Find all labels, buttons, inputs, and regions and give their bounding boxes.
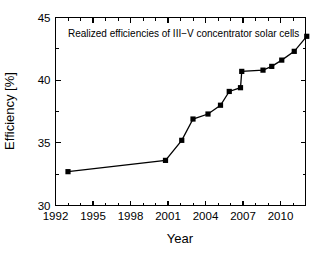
axis-frame xyxy=(56,18,306,206)
y-axis-major-ticks xyxy=(56,18,306,206)
plot-annotation-label: Realized efficiencies of III−V concentra… xyxy=(68,28,299,39)
data-series-group xyxy=(65,34,309,175)
x-tick-label: 1995 xyxy=(80,210,106,222)
y-axis-tick-labels: 30354045 xyxy=(38,12,51,212)
x-axis-minor-ticks xyxy=(68,18,306,206)
chart-figure: 1992199519982001200420072010 30354045 Re… xyxy=(0,0,322,256)
x-tick-label: 2001 xyxy=(155,210,181,222)
data-point-marker xyxy=(190,116,195,121)
x-tick-label: 1998 xyxy=(118,210,144,222)
data-point-marker xyxy=(238,85,243,90)
y-tick-label: 45 xyxy=(38,12,51,24)
x-axis-tick-labels: 1992199519982001200420072010 xyxy=(43,210,294,222)
x-tick-label: 2010 xyxy=(268,210,294,222)
data-point-marker xyxy=(279,58,284,63)
data-point-marker xyxy=(304,34,309,39)
series-markers xyxy=(65,34,309,175)
x-tick-label: 2007 xyxy=(230,210,256,222)
data-point-marker xyxy=(163,158,168,163)
y-tick-label: 35 xyxy=(38,137,51,149)
x-tick-label: 2004 xyxy=(193,210,219,222)
data-point-marker xyxy=(65,169,70,174)
x-axis-major-ticks xyxy=(56,18,281,206)
y-tick-label: 30 xyxy=(38,200,51,212)
data-point-marker xyxy=(227,89,232,94)
data-point-marker xyxy=(218,103,223,108)
series-line xyxy=(68,36,307,171)
data-point-marker xyxy=(260,68,265,73)
data-point-marker xyxy=(179,138,184,143)
plot-frame xyxy=(56,18,306,206)
y-tick-label: 40 xyxy=(38,74,51,86)
data-point-marker xyxy=(292,49,297,54)
data-point-marker xyxy=(239,69,244,74)
x-axis-title: Year xyxy=(167,231,194,246)
data-point-marker xyxy=(205,111,210,116)
data-point-marker xyxy=(269,64,274,69)
y-axis-title: Efficiency [%] xyxy=(2,72,17,150)
efficiency-vs-year-line-chart: 1992199519982001200420072010 30354045 Re… xyxy=(0,0,322,256)
